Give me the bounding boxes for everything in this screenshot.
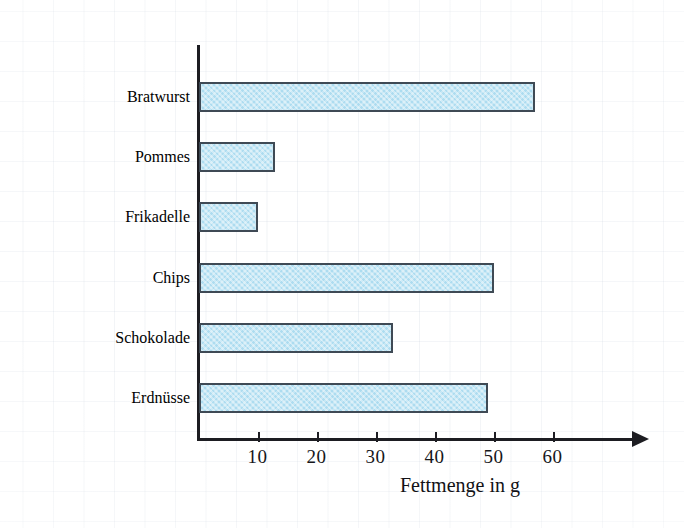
x-axis-tick-label: 50 — [474, 446, 514, 468]
x-axis-tick-label: 20 — [297, 446, 337, 468]
bar — [199, 142, 276, 172]
category-label-text: Erdnüsse — [131, 389, 190, 407]
category-label-text: Pommes — [135, 148, 190, 166]
x-axis-tick — [435, 432, 437, 442]
x-axis-tick-label: 30 — [356, 446, 396, 468]
x-axis-tick — [317, 432, 319, 442]
horizontal-bar-chart: BratwurstPommesFrikadelleChipsSchokolade… — [0, 0, 684, 528]
x-axis-tick-label: 60 — [533, 446, 573, 468]
category-label: Erdnüsse — [0, 383, 190, 413]
category-label: Chips — [0, 263, 190, 293]
x-axis-tick-label: 40 — [415, 446, 455, 468]
category-label-text: Frikadelle — [125, 208, 190, 226]
category-label: Schokolade — [0, 323, 190, 353]
category-label: Frikadelle — [0, 202, 190, 232]
x-axis-title: Fettmenge in g — [400, 474, 520, 497]
x-axis-tick — [553, 432, 555, 442]
x-axis-arrow-icon — [632, 431, 649, 447]
x-axis-tick-label: 10 — [238, 446, 278, 468]
bar — [199, 323, 394, 353]
x-axis-line — [197, 438, 635, 441]
x-axis-tick — [494, 432, 496, 442]
category-label-text: Schokolade — [115, 329, 190, 347]
x-axis-tick — [376, 432, 378, 442]
category-label-text: Bratwurst — [127, 88, 190, 106]
category-label: Pommes — [0, 142, 190, 172]
category-label: Bratwurst — [0, 82, 190, 112]
bar — [199, 202, 258, 232]
chart-page: BratwurstPommesFrikadelleChipsSchokolade… — [0, 0, 684, 528]
category-label-text: Chips — [153, 269, 190, 287]
bar — [199, 82, 535, 112]
bar — [199, 383, 488, 413]
x-axis-tick — [258, 432, 260, 442]
bar — [199, 263, 494, 293]
